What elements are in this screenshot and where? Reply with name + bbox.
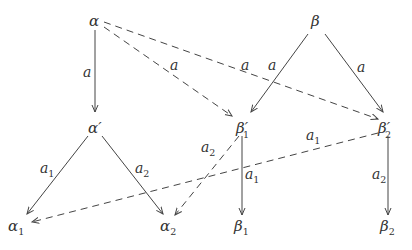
node-beta1-prime: β′1 (235, 119, 249, 140)
label-beta1-prime-beta1: a1 (245, 166, 259, 185)
node-alpha1: α1 (8, 217, 24, 237)
label-beta1-prime-alpha2: a2 (201, 139, 215, 158)
beta1-base: β (233, 217, 243, 235)
node-alpha2: α2 (160, 217, 176, 237)
node-beta1: β1 (233, 217, 249, 237)
label-beta-beta2-prime: a (357, 59, 365, 75)
node-alpha: α (89, 12, 99, 30)
label-alpha-beta2-prime: a (241, 57, 249, 73)
alpha2-subscript: 2 (170, 226, 176, 237)
nodes: α β α′ β′1 β′2 α1 α2 β1 β2 (8, 12, 395, 237)
label-alpha-prime-alpha2: a2 (135, 160, 149, 179)
label-alpha-beta1-prime: a (170, 57, 178, 73)
label-alpha-alpha-prime: a (83, 64, 91, 80)
commutative-diagram: α β α′ β′1 β′2 α1 α2 β1 β2 a a a a a a1 … (0, 0, 412, 250)
beta2-subscript: 2 (389, 226, 395, 237)
edge-beta-to-beta2-prime (325, 34, 383, 112)
a1-base: a (40, 160, 48, 176)
a1-subscript: 1 (314, 135, 320, 146)
label-alpha-prime-alpha1: a1 (40, 160, 54, 179)
node-beta2-prime: β′2 (377, 119, 391, 140)
edge-alpha-prime-to-alpha1 (27, 136, 88, 214)
node-beta: β (310, 12, 320, 30)
beta1-prime-subscript: 1 (243, 129, 249, 140)
label-beta2-prime-alpha1: a1 (306, 127, 320, 146)
a1-base: a (245, 166, 253, 182)
edge-alpha-to-beta1-prime (104, 27, 232, 116)
a2-base: a (372, 166, 380, 182)
a1-subscript: 1 (253, 174, 259, 185)
edge-beta-to-beta1-prime (251, 34, 308, 112)
a2-base: a (135, 160, 143, 176)
a1-subscript: 1 (48, 168, 54, 179)
a1-base: a (306, 127, 314, 143)
a2-subscript: 2 (143, 168, 149, 179)
edges (27, 22, 388, 222)
a2-subscript: 2 (380, 174, 386, 185)
a2-subscript: 2 (209, 147, 215, 158)
beta2-prime-subscript: 2 (385, 129, 391, 140)
alpha1-subscript: 1 (18, 226, 24, 237)
label-beta-beta1-prime: a (268, 57, 276, 73)
alpha1-base: α (8, 217, 18, 235)
label-beta2-prime-beta2: a2 (372, 166, 386, 185)
alpha2-base: α (160, 217, 170, 235)
node-beta2: β2 (379, 217, 395, 237)
a2-base: a (201, 139, 209, 155)
beta2-base: β (379, 217, 389, 235)
beta1-subscript: 1 (243, 226, 249, 237)
node-alpha-prime: α′ (88, 119, 102, 137)
edge-alpha-prime-to-alpha2 (102, 136, 163, 214)
